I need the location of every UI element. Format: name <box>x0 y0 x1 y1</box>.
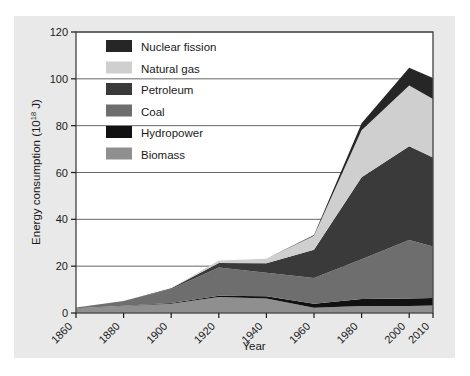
stacked-area-chart: 020406080100120 186018801900192019401960… <box>14 16 455 358</box>
y-axis-title: Energy consumption (1018 J) <box>29 99 42 245</box>
x-tick-label: 1980 <box>334 320 360 346</box>
legend-swatch-natural-gas <box>106 62 132 74</box>
legend-label-coal: Coal <box>141 106 165 118</box>
x-tick-label: 1880 <box>96 320 122 346</box>
legend-label-nuclear-fission: Nuclear fission <box>141 41 216 53</box>
y-tick-label: 120 <box>50 26 68 38</box>
x-axis-ticks: 186018801900192019401960198020002010 <box>49 313 433 346</box>
y-axis-title-sup: 18 <box>29 112 38 120</box>
legend-swatch-hydropower <box>106 126 132 138</box>
legend-swatch-biomass <box>106 148 132 160</box>
x-axis-title: Year <box>242 340 265 352</box>
y-axis-title-tail: J) <box>30 99 42 112</box>
x-tick-label: 1960 <box>287 320 313 346</box>
legend-swatch-coal <box>106 105 132 117</box>
y-tick-label: 0 <box>62 307 68 319</box>
y-tick-label: 60 <box>56 167 68 179</box>
legend-swatch-petroleum <box>106 83 132 95</box>
legend-label-natural-gas: Natural gas <box>141 63 200 75</box>
chart-canvas: 020406080100120 186018801900192019401960… <box>14 16 455 358</box>
figure-panel: 020406080100120 186018801900192019401960… <box>14 16 455 358</box>
y-axis-title-main: Energy consumption (10 <box>30 120 42 245</box>
x-tick-label: 1860 <box>49 320 75 346</box>
legend-label-biomass: Biomass <box>141 149 185 161</box>
y-tick-label: 100 <box>50 73 68 85</box>
legend-label-hydropower: Hydropower <box>141 127 203 139</box>
y-axis-ticks: 020406080100120 <box>50 26 76 319</box>
x-tick-label: 1920 <box>191 320 217 346</box>
legend-swatch-nuclear-fission <box>106 40 132 52</box>
y-tick-label: 80 <box>56 120 68 132</box>
y-tick-label: 40 <box>56 213 68 225</box>
x-tick-label: 2010 <box>406 320 432 346</box>
x-tick-label: 1900 <box>144 320 170 346</box>
legend-label-petroleum: Petroleum <box>141 84 193 96</box>
y-tick-label: 20 <box>56 260 68 272</box>
x-tick-label: 2000 <box>382 320 408 346</box>
